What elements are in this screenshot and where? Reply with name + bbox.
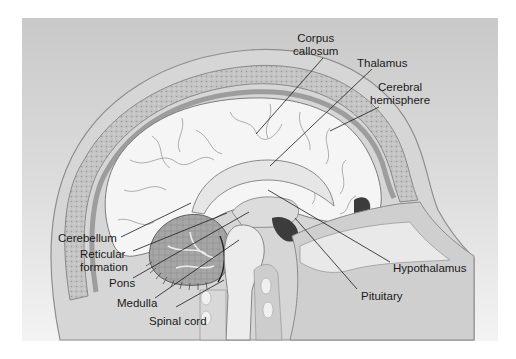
label-medulla: Medulla [117,297,157,310]
label-cerebellum: Cerebellum [58,232,117,245]
label-spinal-cord: Spinal cord [149,315,207,328]
label-corpus-callosum: Corpus callosum [293,32,338,58]
label-thalamus: Thalamus [357,57,408,70]
label-hypothalamus: Hypothalamus [393,262,467,275]
label-cerebral-hemisphere: Cerebral hemisphere [370,81,430,107]
label-pituitary: Pituitary [361,290,403,303]
label-pons: Pons [109,277,135,290]
brain-illustration [0,0,516,359]
brain-diagram: Corpus callosum Thalamus Cerebral hemisp… [0,0,516,359]
label-reticular-formation: Reticular formation [80,248,128,274]
